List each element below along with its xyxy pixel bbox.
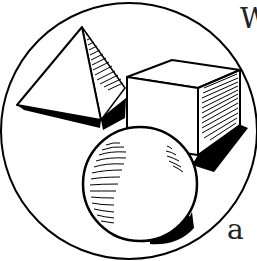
geometric-solids-illustration <box>0 0 257 261</box>
sphere-shape <box>83 127 197 244</box>
pyramid-shape <box>17 27 126 130</box>
text-fragment-top-right: W <box>240 5 257 33</box>
text-fragment-bottom-right: a <box>227 216 244 244</box>
